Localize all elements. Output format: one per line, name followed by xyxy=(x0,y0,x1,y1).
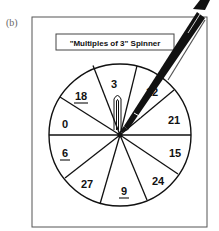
center-pivot xyxy=(118,133,123,138)
section-24: 24 xyxy=(152,175,165,187)
section-9: 9 xyxy=(121,185,127,197)
section-18: 18 xyxy=(75,90,87,102)
section-3: 3 xyxy=(111,78,117,90)
section-15: 15 xyxy=(169,147,181,159)
section-0: 0 xyxy=(62,118,68,130)
section-21: 21 xyxy=(168,114,180,126)
section-6: 6 xyxy=(62,147,68,159)
spinner-figure: "Multiples of 3" Spinner 3 12 21 15 24 9… xyxy=(0,0,219,231)
spinner-title: "Multiples of 3" Spinner xyxy=(70,39,161,48)
section-27: 27 xyxy=(81,178,93,190)
